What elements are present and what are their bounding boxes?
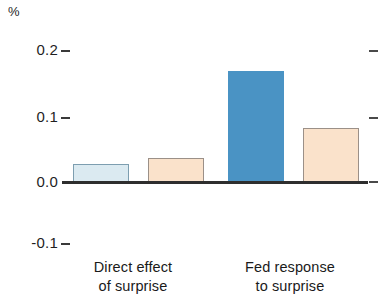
bar-direct-effect-series-1 <box>73 164 129 182</box>
bar-direct-effect-series-2 <box>148 158 204 182</box>
category-label-direct-effect: Direct effect of surprise <box>63 258 203 296</box>
category-label-line-1: Direct effect <box>94 259 172 275</box>
bar-fed-response-series-1 <box>228 71 284 182</box>
x-axis-baseline <box>62 181 368 184</box>
category-label-fed-response: Fed response to surprise <box>220 258 360 296</box>
category-label-line-2: to surprise <box>220 277 360 296</box>
plot-area <box>0 0 378 300</box>
category-label-line-2: of surprise <box>63 277 203 296</box>
bar-chart: % 0.2 0.1 0.0 -0.1 Direct effect of surp… <box>0 0 378 300</box>
bar-fed-response-series-2 <box>303 128 359 182</box>
category-label-line-1: Fed response <box>245 259 335 275</box>
